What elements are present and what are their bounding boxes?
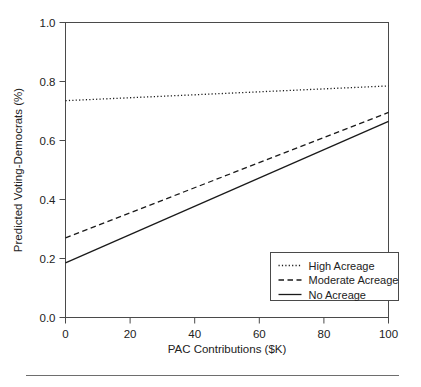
legend-label: Moderate Acreage: [309, 274, 399, 286]
y-tick-label: 1.0: [40, 17, 56, 29]
x-axis-title: PAC Contributions ($K): [168, 343, 287, 355]
x-tick-label: 0: [62, 328, 68, 340]
y-tick-label: 0.2: [40, 253, 56, 265]
y-tick-label: 0.4: [40, 194, 57, 206]
series-line-dotted: [66, 86, 389, 101]
x-tick-label: 100: [379, 328, 398, 340]
y-tick-label: 0.8: [40, 76, 56, 88]
chart-figure: 0.00.20.40.60.81.0020406080100PAC Contri…: [0, 0, 421, 387]
legend-label: High Acreage: [309, 260, 375, 272]
line-chart: 0.00.20.40.60.81.0020406080100PAC Contri…: [0, 0, 421, 387]
x-tick-label: 60: [253, 328, 266, 340]
y-tick-label: 0.6: [40, 135, 56, 147]
series-line-solid: [66, 121, 389, 263]
y-axis-title: Predicted Voting-Democrats (%): [12, 88, 24, 252]
series-line-dashed: [66, 112, 389, 237]
x-tick-label: 80: [318, 328, 331, 340]
x-tick-label: 40: [188, 328, 201, 340]
y-tick-label: 0.0: [40, 312, 56, 324]
legend-label: No Acreage: [309, 289, 366, 301]
x-tick-label: 20: [124, 328, 137, 340]
